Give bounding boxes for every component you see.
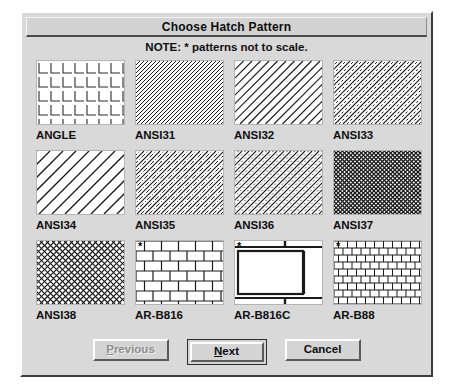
cancel-button[interactable]: Cancel: [285, 339, 361, 361]
pattern-swatch-ansi33[interactable]: [333, 60, 422, 125]
pattern-label: ANSI32: [234, 128, 323, 142]
not-to-scale-star-icon: *: [237, 241, 241, 252]
pattern-cell[interactable]: ANSI35: [135, 150, 224, 232]
pattern-swatch-ar-b88[interactable]: *: [333, 240, 422, 305]
pattern-cell[interactable]: ANSI37: [333, 150, 422, 232]
pattern-swatch-ansi37[interactable]: [333, 150, 422, 215]
pattern-label: ANSI37: [333, 218, 422, 232]
not-to-scale-star-icon: *: [138, 241, 142, 252]
pattern-cell[interactable]: ANSI32: [234, 60, 323, 142]
dialog-body: Choose Hatch Pattern NOTE: * patterns no…: [22, 13, 431, 375]
pattern-swatch-ar-b816[interactable]: *: [135, 240, 224, 305]
pattern-cell[interactable]: *AR-B816C: [234, 240, 323, 322]
choose-hatch-pattern-dialog: Choose Hatch Pattern NOTE: * patterns no…: [20, 11, 433, 377]
screenshot-root: Choose Hatch Pattern NOTE: * patterns no…: [0, 0, 453, 392]
pattern-label: AR-B816: [135, 308, 224, 322]
pattern-label: AR-B816C: [234, 308, 323, 322]
pattern-label: ANSI34: [36, 218, 125, 232]
pattern-cell[interactable]: *AR-B816: [135, 240, 224, 322]
pattern-cell[interactable]: ANSI33: [333, 60, 422, 142]
previous-button[interactable]: Previous: [93, 339, 169, 361]
not-to-scale-star-icon: *: [336, 241, 340, 252]
pattern-cell[interactable]: ANSI34: [36, 150, 125, 232]
pattern-cell[interactable]: ANSI38: [36, 240, 125, 322]
pattern-swatch-angle[interactable]: [36, 60, 125, 125]
pattern-cell[interactable]: *AR-B88: [333, 240, 422, 322]
dialog-titlebar: Choose Hatch Pattern: [26, 17, 427, 37]
pattern-swatch-ansi32[interactable]: [234, 60, 323, 125]
note-text: NOTE: * patterns not to scale.: [22, 41, 431, 53]
pattern-swatch-ansi35[interactable]: [135, 150, 224, 215]
pattern-swatch-ansi38[interactable]: [36, 240, 125, 305]
previous-button-label: Previous: [106, 344, 155, 356]
dialog-button-bar: Previous Next Cancel: [22, 339, 431, 365]
dialog-title: Choose Hatch Pattern: [162, 21, 291, 33]
pattern-row: ANGLEANSI31ANSI32ANSI33: [36, 60, 421, 150]
cancel-button-label: Cancel: [304, 344, 342, 356]
pattern-row: ANSI38*AR-B816*AR-B816C*AR-B88: [36, 240, 421, 330]
pattern-cell[interactable]: ANSI36: [234, 150, 323, 232]
pattern-label: ANSI36: [234, 218, 323, 232]
next-button[interactable]: Next: [190, 342, 264, 362]
pattern-swatch-ar-b816c[interactable]: *: [234, 240, 323, 305]
pattern-label: ANSI33: [333, 128, 422, 142]
next-button-label: Next: [214, 346, 239, 358]
pattern-label: ANSI31: [135, 128, 224, 142]
pattern-label: ANSI38: [36, 308, 125, 322]
pattern-swatch-ansi36[interactable]: [234, 150, 323, 215]
pattern-label: AR-B88: [333, 308, 422, 322]
pattern-grid: ANGLEANSI31ANSI32ANSI33ANSI34ANSI35ANSI3…: [36, 60, 421, 330]
pattern-cell[interactable]: ANGLE: [36, 60, 125, 142]
pattern-swatch-ansi34[interactable]: [36, 150, 125, 215]
next-button-default-ring: Next: [187, 339, 267, 365]
pattern-swatch-ansi31[interactable]: [135, 60, 224, 125]
pattern-row: ANSI34ANSI35ANSI36ANSI37: [36, 150, 421, 240]
pattern-label: ANSI35: [135, 218, 224, 232]
pattern-label: ANGLE: [36, 128, 125, 142]
pattern-cell[interactable]: ANSI31: [135, 60, 224, 142]
